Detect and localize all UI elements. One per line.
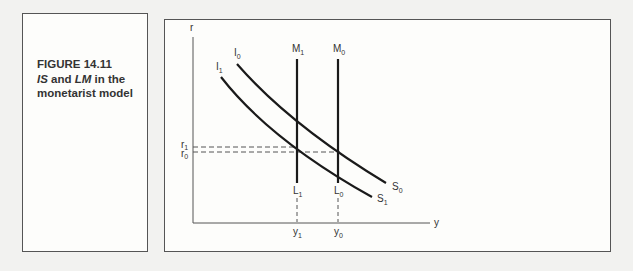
x-axis-label: y [434,217,439,228]
is-lm-diagram: r y I0 I1 S0 S1 M1 M0 L1 L0 r1 r0 y1 y0 [0,0,633,271]
y-axis-label: r [190,22,194,33]
i0-label: I0 [234,47,241,60]
l1-label: L1 [293,185,303,198]
y0-label: y0 [334,226,343,239]
m1-label: M1 [292,43,304,56]
l0-label: L0 [334,185,344,198]
i1-label: I1 [216,61,223,74]
is0-curve [237,64,386,183]
s1-label: S1 [377,193,388,206]
y1-label: y1 [293,226,302,239]
s0-label: S0 [392,181,403,194]
m0-label: M0 [333,43,345,56]
